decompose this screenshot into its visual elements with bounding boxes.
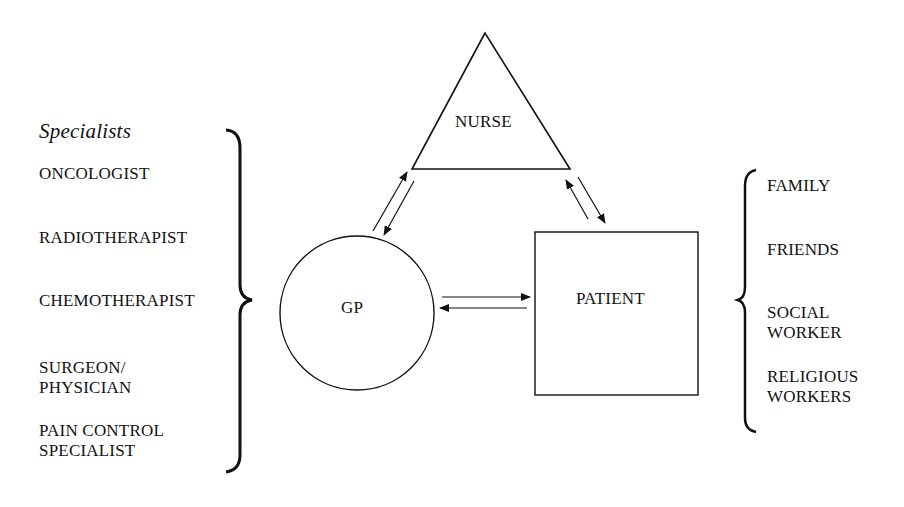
- specialist-pain-control: PAIN CONTROL SPECIALIST: [39, 421, 164, 461]
- arrow-gp-to-nurse: [373, 172, 407, 231]
- specialists-title: Specialists: [39, 121, 131, 141]
- patient-label: PATIENT: [576, 289, 645, 309]
- support-religious-workers: RELIGIOUS WORKERS: [767, 367, 859, 407]
- patient-square: [535, 232, 698, 395]
- specialist-radiotherapist: RADIOTHERAPIST: [39, 228, 187, 248]
- arrow-patient-to-nurse: [566, 180, 588, 219]
- support-friends: FRIENDS: [767, 240, 839, 260]
- specialist-oncologist: ONCOLOGIST: [39, 164, 150, 184]
- arrow-nurse-to-patient: [578, 177, 605, 223]
- support-family: FAMILY: [767, 176, 830, 196]
- specialist-surgeon-physician: SURGEON/ PHYSICIAN: [39, 358, 131, 398]
- gp-label: GP: [341, 298, 363, 318]
- specialist-chemotherapist: CHEMOTHERAPIST: [39, 291, 195, 311]
- right-brace: [738, 170, 756, 432]
- arrow-nurse-to-gp: [384, 181, 414, 235]
- support-social-worker: SOCIAL WORKER: [767, 303, 842, 343]
- nurse-label: NURSE: [455, 112, 512, 132]
- left-brace: [226, 130, 252, 472]
- nurse-triangle: [412, 33, 570, 169]
